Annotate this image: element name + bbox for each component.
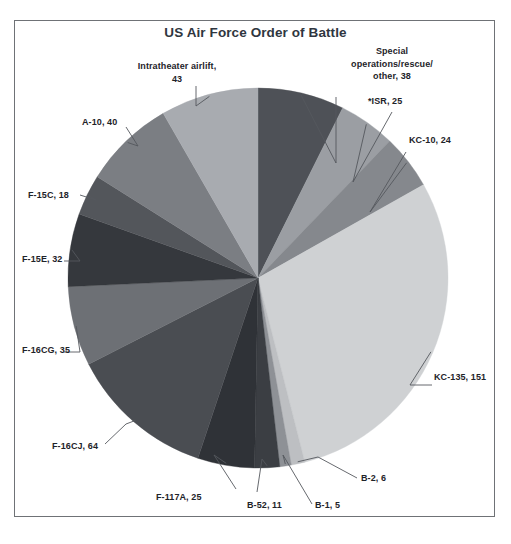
slice-label-special-operations: Special operations/rescue/ other, 38 <box>322 45 462 83</box>
slice-label-f-15e: F-15E, 32 <box>22 253 102 266</box>
slice-label-intratheater-airlift: Intratheater airlift, 43 <box>122 60 232 85</box>
slice-label-a-10: A-10, 40 <box>82 116 157 129</box>
slice-label-f-117a: F-117A, 25 <box>156 491 236 504</box>
slice-label-b-2: B-2, 6 <box>361 472 431 485</box>
chart-title: US Air Force Order of Battle <box>0 25 511 40</box>
slice-label-kc-10: KC-10, 24 <box>409 134 509 147</box>
slice-label-b-1: B-1, 5 <box>315 499 385 512</box>
slice-label-f-15c: F-15C, 18 <box>28 189 108 202</box>
chart-canvas: US Air Force Order of Battle Special ope… <box>0 0 511 544</box>
slice-label-isr: *ISR, 25 <box>368 95 478 108</box>
leader-line <box>298 457 357 478</box>
slice-label-f-16cg: F-16CG, 35 <box>22 344 107 357</box>
slice-label-kc-135: KC-135, 151 <box>434 371 511 384</box>
slice-label-b-52: B-52, 11 <box>247 499 317 512</box>
slice-label-f-16cj: F-16CJ, 64 <box>52 440 132 453</box>
pie-slices-group <box>68 88 448 468</box>
